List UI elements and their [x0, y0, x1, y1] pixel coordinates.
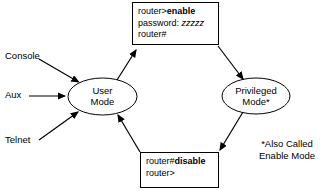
telnet-arrow [39, 112, 78, 140]
disable-box-command: disable [175, 156, 206, 166]
footnote-line-1: *Also Called [248, 138, 326, 150]
disable-transition-arrow [220, 112, 243, 150]
access-label-telnet: Telnet [5, 134, 30, 145]
diagram-canvas: User Mode Privileged Mode* router>enable… [0, 0, 328, 191]
disable-box-prompt: router# [146, 156, 175, 166]
enable-box-line-3: router# [138, 29, 213, 41]
privileged-mode-ellipse[interactable] [222, 78, 290, 114]
disable-command-box[interactable]: router#disable router> [140, 152, 219, 188]
disable-box-line-2: router> [146, 168, 213, 180]
enable-box-password-label: password: [138, 18, 182, 28]
console-arrow [39, 59, 79, 82]
access-label-aux: Aux [5, 89, 21, 100]
access-label-console: Console [5, 50, 40, 61]
disable-box-line-1: router#disable [146, 156, 213, 168]
to-privileged-arrow [218, 46, 243, 79]
enable-box-prompt: router> [138, 6, 167, 16]
enable-command-box[interactable]: router>enable password: zzzzz router# [132, 2, 219, 45]
footnote: *Also Called Enable Mode [248, 138, 326, 161]
enable-box-line-2: password: zzzzz [138, 18, 213, 30]
user-mode-ellipse[interactable] [68, 78, 137, 115]
enable-transition-arrow [117, 50, 136, 80]
footnote-line-2: Enable Mode [248, 150, 326, 162]
enable-box-line-1: router>enable [138, 6, 213, 18]
to-user-mode-arrow [118, 115, 140, 152]
enable-box-password-value: zzzzz [182, 18, 205, 28]
enable-box-command: enable [167, 6, 196, 16]
